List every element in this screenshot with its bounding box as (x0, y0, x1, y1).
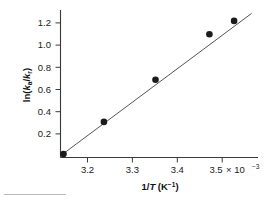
y-tick-label: 1.0 (38, 39, 51, 50)
y-tick-label: 0.4 (38, 106, 51, 117)
y-axis-title-close: ) (21, 68, 32, 71)
footer-rule (4, 194, 66, 195)
data-point (231, 18, 238, 25)
x-multiplier-base: × 10 (226, 164, 245, 175)
x-axis-multiplier: × 10 −3 (226, 163, 260, 176)
arrhenius-plot-figure: 0.2 0.4 0.6 0.8 1.0 1.2 3.2 3.3 3.4 3.5 … (0, 0, 270, 204)
y-axis-title-prefix: ln( (21, 90, 32, 102)
data-point (60, 151, 67, 158)
y-tick-label: 1.2 (38, 17, 51, 28)
chart-canvas: 0.2 0.4 0.6 0.8 1.0 1.2 3.2 3.3 3.4 3.5 … (0, 0, 270, 204)
y-axis-title: ln(ka/kr) (21, 68, 33, 102)
x-tick-label: 3.4 (171, 164, 184, 175)
x-axis-title-units: (K (155, 181, 168, 192)
y-tick-label: 0.2 (38, 128, 51, 139)
x-axis-title: 1/T (K−1) (141, 181, 178, 193)
data-point (101, 119, 108, 126)
x-tick-label: 3.3 (126, 164, 139, 175)
x-multiplier-exponent: −3 (252, 163, 260, 170)
y-tick-label: 0.6 (38, 84, 51, 95)
data-point (152, 76, 159, 83)
x-axis-title-units-close: ) (175, 181, 178, 192)
y-axis-ticks (56, 23, 61, 134)
x-tick-label: 3.2 (81, 164, 94, 175)
data-point (206, 31, 213, 38)
fit-line (63, 13, 252, 154)
x-axis-ticks (88, 158, 223, 163)
x-axis-tick-labels: 3.2 3.3 3.4 3.5 (81, 164, 223, 175)
y-axis-tick-labels: 0.2 0.4 0.6 0.8 1.0 1.2 (38, 17, 51, 139)
svg-text:ln(ka/kr): ln(ka/kr) (21, 68, 33, 102)
x-tick-label: 3.5 (209, 164, 222, 175)
y-tick-label: 0.8 (38, 62, 51, 73)
